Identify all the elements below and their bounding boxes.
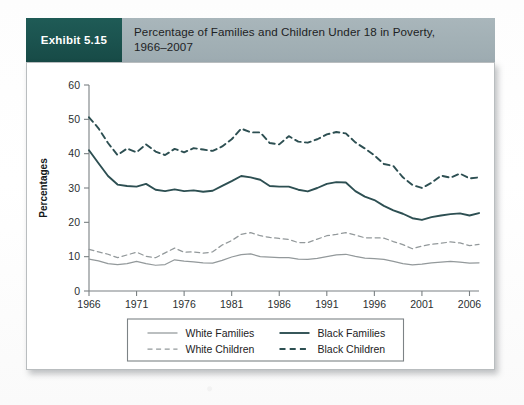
legend-label-black-children: Black Children	[318, 343, 386, 355]
x-tick-label: 2006	[458, 298, 482, 310]
exhibit-title-line-2: 1966–2007	[134, 39, 485, 54]
x-tick-label: 1966	[77, 298, 101, 310]
x-tick-label: 2001	[410, 298, 434, 310]
y-tick-label: 10	[68, 250, 80, 262]
series-white-families	[89, 254, 479, 265]
poverty-line-chart: 0102030405060Percentages 196619711976198…	[27, 63, 496, 371]
y-axis: 0102030405060Percentages	[38, 79, 89, 297]
y-tick-label: 60	[68, 79, 80, 91]
legend-label-black-families: Black Families	[318, 327, 386, 339]
chart-panel: 0102030405060Percentages 196619711976198…	[26, 62, 495, 370]
exhibit-number-tag: Exhibit 5.15	[26, 18, 122, 62]
chart-series-group	[89, 117, 479, 265]
exhibit-title: Percentage of Families and Children Unde…	[122, 18, 495, 62]
exhibit-header-band: Exhibit 5.15 Percentage of Families and …	[26, 18, 495, 62]
y-tick-label: 20	[68, 216, 80, 228]
y-tick-label: 30	[68, 182, 80, 194]
y-axis-title: Percentages	[38, 158, 49, 218]
x-tick-label: 1976	[172, 298, 196, 310]
series-white-children	[89, 233, 479, 258]
x-tick-label: 1981	[220, 298, 244, 310]
series-black-families	[89, 150, 479, 220]
y-tick-label: 0	[74, 285, 80, 297]
exhibit-title-line-1: Percentage of Families and Children Unde…	[134, 25, 435, 38]
legend-label-white-children: White Children	[186, 343, 255, 355]
x-tick-label: 1996	[363, 298, 387, 310]
series-black-children	[89, 117, 479, 188]
chart-legend: White FamiliesBlack FamiliesWhite Childr…	[128, 319, 404, 361]
x-tick-label: 1986	[268, 298, 292, 310]
legend-label-white-families: White Families	[186, 327, 255, 339]
x-tick-label: 1991	[315, 298, 339, 310]
x-axis: 196619711976198119861991199620012006	[77, 291, 481, 310]
y-tick-label: 50	[68, 113, 80, 125]
x-tick-label: 1971	[125, 298, 149, 310]
y-tick-label: 40	[68, 147, 80, 159]
